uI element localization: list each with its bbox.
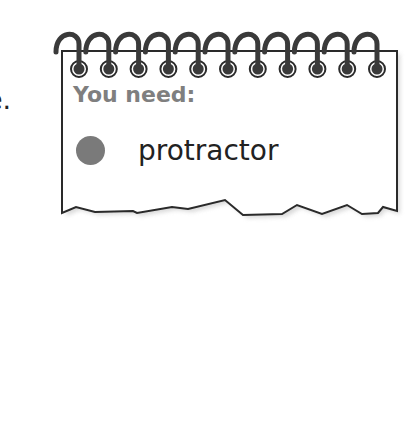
notepad-title: You need: bbox=[73, 82, 195, 107]
list-item-label: protractor bbox=[138, 137, 278, 165]
notepad-card: You need: protractor bbox=[0, 0, 405, 230]
bullet-dot-icon bbox=[76, 136, 105, 165]
notepad-frame bbox=[0, 0, 405, 230]
list-item: protractor bbox=[76, 136, 278, 165]
